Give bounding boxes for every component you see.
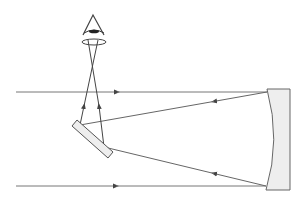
reflected-ray-upper [80,92,267,125]
reflected-ray-lower [104,147,266,186]
ray-to-eye-right [88,40,104,147]
flat-mirror [72,120,113,158]
telescope-diagram [0,0,305,203]
concave-mirror [266,89,290,190]
eyepiece-lens [82,39,106,45]
diagram-canvas [0,0,305,203]
eye-icon [83,15,104,35]
